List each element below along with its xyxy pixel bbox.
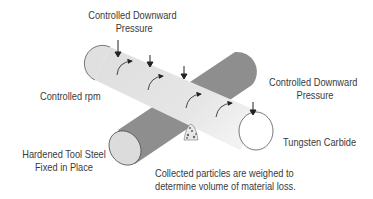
tungsten-label: Tungsten Carbide xyxy=(283,136,356,149)
particles-caption: Collected particles are weighed to deter… xyxy=(155,167,296,193)
rotating-cylinder-end-cap xyxy=(239,112,273,150)
right-pressure-label: Controlled Downward Pressure xyxy=(256,76,370,102)
tool-steel-label: Hardened Tool Steel Fixed in Place xyxy=(20,148,108,174)
rpm-label: Controlled rpm xyxy=(40,90,101,103)
top-pressure-label: Controlled Downward Pressure xyxy=(73,9,192,35)
